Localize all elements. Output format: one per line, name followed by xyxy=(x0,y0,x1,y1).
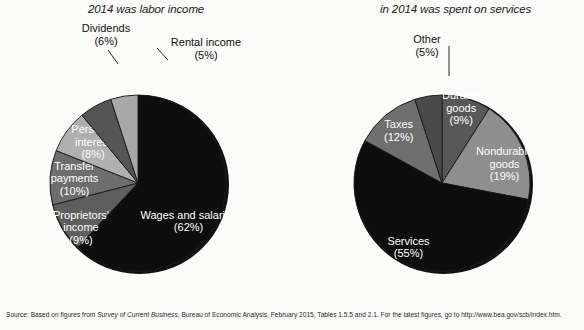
callout-rental-income: Rental income (5%) xyxy=(151,36,261,61)
source-note: Source: Based on figures from Survey of … xyxy=(6,310,580,319)
source-suffix: , Bureau of Economic Analysis, February … xyxy=(178,311,562,318)
pie-chart-figure: 2014 was labor income in 2014 was spent … xyxy=(0,0,584,330)
source-prefix: Source: Based on figures from xyxy=(6,311,97,318)
slice-label-taxes: Taxes(12%) xyxy=(384,118,414,142)
pie-chart-labor-income: Wages and salaries(62%)Proprietors'incom… xyxy=(0,36,292,296)
chart-title-right: in 2014 was spent on services xyxy=(380,3,531,15)
callout-dividends: Dividends (6%) xyxy=(58,22,154,47)
callout-other-name: Other xyxy=(413,33,441,45)
pie-chart-consumption: Durablegoods(9%)Nondurablegoods(19%)Serv… xyxy=(292,36,584,296)
callout-dividends-pct: (6%) xyxy=(94,35,117,47)
chart-title-left: 2014 was labor income xyxy=(88,3,204,15)
callout-other: Other (5%) xyxy=(392,33,462,58)
source-publication: Survey of Current Business xyxy=(97,311,178,318)
callout-rental-income-name: Rental income xyxy=(171,36,241,48)
leader-line-dividends xyxy=(108,50,118,64)
callout-rental-income-pct: (5%) xyxy=(194,49,217,61)
pie-right-svg: Durablegoods(9%)Nondurablegoods(19%)Serv… xyxy=(292,36,584,296)
callout-other-pct: (5%) xyxy=(415,46,438,58)
callout-dividends-name: Dividends xyxy=(82,22,130,34)
pie-left-svg: Wages and salaries(62%)Proprietors'incom… xyxy=(0,36,292,296)
